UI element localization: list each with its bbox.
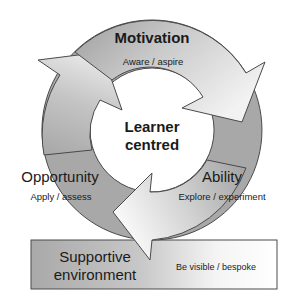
motivation-title: Motivation bbox=[115, 29, 190, 46]
ability-subtitle: Explore / experiment bbox=[178, 191, 265, 202]
center-label-line1: Learner bbox=[124, 118, 179, 135]
supportive-environment-title-line1: Supportive bbox=[59, 248, 131, 265]
opportunity-title: Opportunity bbox=[21, 168, 99, 185]
opportunity-subtitle: Apply / assess bbox=[30, 191, 91, 202]
ability-title: Ability bbox=[202, 168, 243, 185]
supportive-environment-title-line2: environment bbox=[54, 266, 137, 283]
learning-cycle-diagram: Motivation Aware / aspire Learner centre… bbox=[0, 0, 291, 307]
motivation-subtitle: Aware / aspire bbox=[123, 56, 184, 67]
supportive-environment-subtitle: Be visible / bespoke bbox=[176, 262, 256, 272]
center-label-line2: centred bbox=[125, 136, 179, 153]
